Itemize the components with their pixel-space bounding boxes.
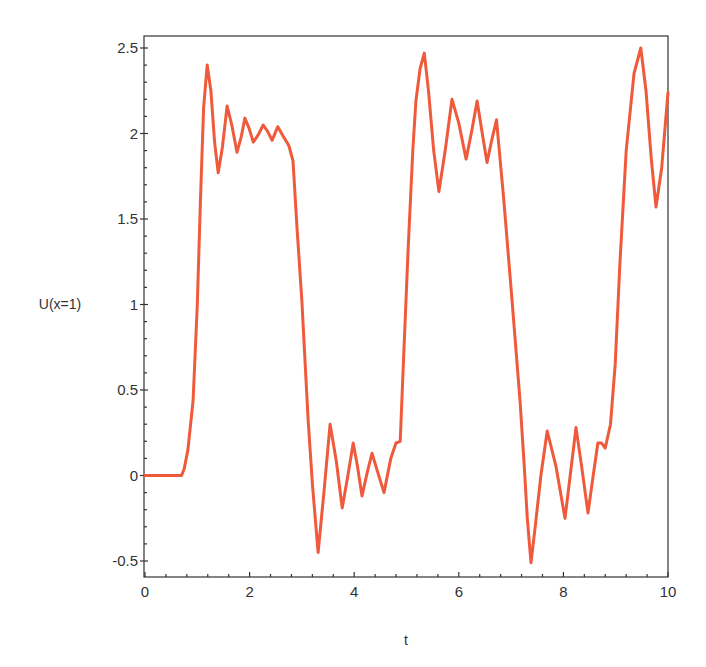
x-tick-label: 10 (660, 583, 677, 600)
y-axis-tick-labels: -0.500.511.522.5 (112, 39, 138, 569)
y-tick-label: 1 (130, 296, 138, 313)
y-axis-label: U(x=1) (39, 296, 81, 312)
x-tick-label: 6 (455, 583, 463, 600)
y-tick-label: 0 (130, 467, 138, 484)
x-tick-label: 0 (141, 583, 149, 600)
y-tick-label: 2.5 (117, 39, 138, 56)
y-tick-label: 1.5 (117, 210, 138, 227)
x-axis-tick-labels: 0246810 (141, 583, 677, 600)
x-axis-label: t (404, 632, 408, 648)
y-tick-label: -0.5 (112, 552, 138, 569)
y-tick-label: 2 (130, 125, 138, 142)
line-chart: 0246810 -0.500.511.522.5 t U(x=1) (0, 0, 706, 667)
x-tick-label: 8 (559, 583, 567, 600)
x-tick-label: 4 (350, 583, 358, 600)
x-tick-label: 2 (245, 583, 253, 600)
y-tick-label: 0.5 (117, 381, 138, 398)
